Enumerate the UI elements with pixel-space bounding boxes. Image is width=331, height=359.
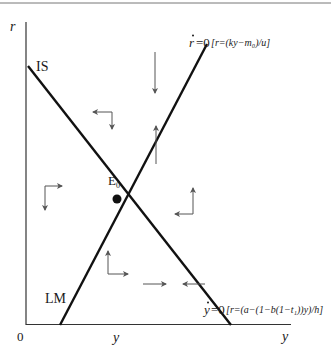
- is-curve: [28, 66, 231, 325]
- dot-accent-icon: [192, 35, 194, 37]
- svg-text:[r=(ky−m₀)/u]: [r=(ky−m₀)/u]: [211, 37, 270, 49]
- lm-label: LM: [45, 291, 67, 306]
- equilibrium-point: [113, 195, 122, 204]
- is-label: IS: [36, 59, 48, 74]
- svg-text:r: r: [189, 35, 195, 50]
- dot-accent-icon: [207, 302, 209, 304]
- equilibrium-label: E0: [108, 173, 120, 190]
- phase-arrow-left-up-right: [175, 188, 193, 214]
- y-axis-label: r: [10, 19, 16, 34]
- origin-label: 0: [17, 329, 24, 344]
- svg-text:[r=(a−(1−b(1−t₁))y)/h]: [r=(a−(1−b(1−t₁))y)/h]: [226, 304, 323, 316]
- x-axis-end-label: y: [280, 329, 289, 344]
- phase-arrow-right-up-bottom: [108, 251, 128, 274]
- y-dot-zero-label: y =0 [r=(a−(1−b(1−t₁))y)/h]: [202, 302, 323, 318]
- svg-text:=0: =0: [196, 35, 210, 50]
- is-lm-phase-diagram: r y 0 IS LM r =0 [r=(ky−m₀)/u] y =0 [r=(…: [0, 0, 331, 359]
- svg-text:=0: =0: [211, 302, 225, 317]
- x-axis-label: y: [111, 330, 120, 345]
- r-dot-zero-label: r =0 [r=(ky−m₀)/u]: [189, 35, 270, 51]
- svg-text:y: y: [202, 302, 210, 317]
- phase-arrow-right-down-left: [45, 186, 62, 210]
- phase-arrow-left-down-top: [93, 112, 112, 129]
- lm-curve: [60, 44, 207, 325]
